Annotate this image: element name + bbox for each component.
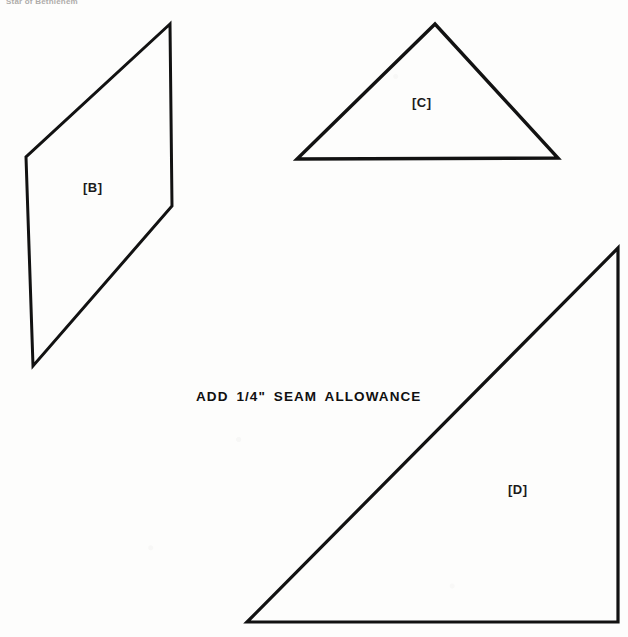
pattern-sheet: Star of Bethlehem [B] [C] [D] ADD 1/4" S… bbox=[0, 0, 628, 637]
piece-d-right-triangle[interactable] bbox=[247, 248, 618, 622]
piece-label-d: [D] bbox=[508, 482, 528, 497]
piece-label-b: [B] bbox=[83, 180, 103, 195]
piece-label-c: [C] bbox=[412, 95, 432, 110]
piece-b-parallelogram[interactable] bbox=[26, 24, 172, 366]
seam-allowance-note: ADD 1/4" SEAM ALLOWANCE bbox=[196, 389, 421, 404]
piece-c-triangle[interactable] bbox=[297, 24, 558, 159]
pattern-pieces-drawing bbox=[0, 0, 628, 637]
